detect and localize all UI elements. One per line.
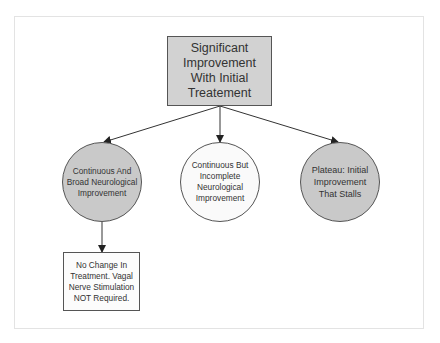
outcome-node-label: No Change In Treatment. Vagal Nerve Stim… <box>66 260 137 304</box>
branch-node-label: Plateau: Initial Improvement That Stalls <box>304 164 376 200</box>
branch-node-label: Continuous But Incomplete Neurological I… <box>184 160 256 204</box>
edge-root-to-branch-1 <box>104 106 220 142</box>
edge-root-to-branch-3 <box>220 106 338 142</box>
branch-node-continuous-incomplete: Continuous But Incomplete Neurological I… <box>180 142 260 222</box>
outcome-node: No Change In Treatment. Vagal Nerve Stim… <box>63 252 140 311</box>
branch-node-label: Continuous And Broad Neurological Improv… <box>66 166 138 199</box>
root-node-label: Significant Improvement With Initial Tre… <box>172 41 267 101</box>
branch-node-continuous-broad: Continuous And Broad Neurological Improv… <box>62 142 142 222</box>
branch-node-plateau: Plateau: Initial Improvement That Stalls <box>300 142 380 222</box>
root-node: Significant Improvement With Initial Tre… <box>167 36 272 106</box>
